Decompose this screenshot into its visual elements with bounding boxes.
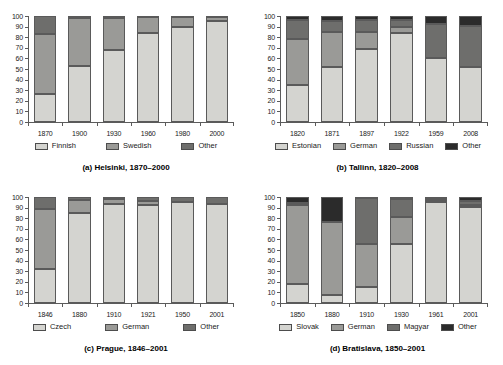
- y-axis-line: [28, 197, 29, 304]
- y-tick-mark: [277, 48, 280, 49]
- x-tick-mark: [131, 123, 132, 126]
- panel-caption: (c) Prague, 1846–2001: [0, 344, 252, 353]
- y-tick-mark: [277, 197, 280, 198]
- panel-caption: (a) Helsinki, 1870–2000: [0, 163, 252, 172]
- legend-item-czech[interactable]: Czech: [33, 323, 71, 331]
- legend-label: German: [348, 323, 375, 331]
- plot-area: 0102030405060708090100182018711897192219…: [280, 16, 488, 122]
- bar-segment-other: [286, 197, 309, 203]
- stacked-bar: [137, 197, 160, 303]
- y-tick-mark: [277, 90, 280, 91]
- stacked-bar: [390, 16, 413, 122]
- legend-item-other[interactable]: Other: [183, 323, 219, 331]
- legend-item-slovak[interactable]: Slovak: [279, 323, 319, 331]
- legend-item-magyar[interactable]: Magyar: [387, 323, 429, 331]
- y-tick-mark: [25, 37, 28, 38]
- y-tick-label: 10: [2, 289, 23, 296]
- stacked-bar: [425, 197, 448, 303]
- y-tick-label: 60: [2, 236, 23, 243]
- bar-segment-estonian: [425, 58, 448, 122]
- y-tick-mark: [277, 27, 280, 28]
- chart-panel-d: 0102030405060708090100185018801910193019…: [252, 183, 503, 365]
- legend-label: Other: [200, 323, 219, 331]
- y-tick-label: 90: [254, 23, 275, 30]
- y-tick-mark: [25, 58, 28, 59]
- bar-segment-swedish: [137, 17, 160, 33]
- legend-item-german[interactable]: German: [105, 323, 149, 331]
- bar-segment-swedish: [34, 34, 57, 94]
- bar-segment-german: [355, 244, 378, 287]
- y-tick-mark: [277, 282, 280, 283]
- bar-segment-swedish: [171, 17, 194, 27]
- stacked-bar: [390, 197, 413, 303]
- y-tick-label: 30: [254, 87, 275, 94]
- y-tick-mark: [25, 239, 28, 240]
- legend-swatch-icon: [275, 143, 288, 150]
- x-tick-label: 1880: [62, 311, 96, 318]
- bar-segment-other: [68, 197, 91, 200]
- stacked-bar: [459, 197, 482, 303]
- y-tick-label: 90: [2, 23, 23, 30]
- bar-segment-other: [355, 197, 378, 199]
- legend-label: Swedish: [123, 142, 151, 150]
- bar-segment-other: [286, 16, 309, 20]
- legend-item-german[interactable]: German: [331, 323, 375, 331]
- y-tick-label: 80: [254, 215, 275, 222]
- legend-item-other[interactable]: Other: [181, 142, 217, 150]
- y-tick-mark: [25, 101, 28, 102]
- y-tick-label: 90: [254, 204, 275, 211]
- bar-segment-other: [425, 16, 448, 24]
- x-tick-label: 2000: [200, 130, 234, 137]
- y-tick-mark: [25, 80, 28, 81]
- legend-label: Finnish: [52, 142, 76, 150]
- stacked-bar: [459, 16, 482, 122]
- y-tick-mark: [277, 271, 280, 272]
- y-tick-label: 10: [254, 108, 275, 115]
- y-tick-mark: [25, 229, 28, 230]
- x-tick-mark: [62, 123, 63, 126]
- y-tick-label: 30: [2, 268, 23, 275]
- y-tick-label: 10: [254, 289, 275, 296]
- y-tick-mark: [277, 37, 280, 38]
- y-tick-mark: [25, 261, 28, 262]
- bar-segment-czech: [137, 205, 160, 303]
- y-tick-label: 50: [2, 247, 23, 254]
- bar-segment-other: [206, 16, 229, 18]
- bar-segment-other: [103, 16, 126, 18]
- legend-item-other[interactable]: Other: [441, 323, 477, 331]
- x-tick-label: 1980: [165, 130, 199, 137]
- bar-segment-czech: [103, 204, 126, 303]
- y-tick-label: 0: [254, 300, 275, 307]
- y-tick-mark: [25, 271, 28, 272]
- legend-item-russian[interactable]: Russian: [389, 142, 433, 150]
- y-tick-mark: [277, 239, 280, 240]
- stacked-bar: [68, 197, 91, 303]
- legend-item-german[interactable]: German: [333, 142, 377, 150]
- x-tick-label: 1850: [280, 311, 315, 318]
- y-tick-label: 0: [2, 300, 23, 307]
- x-tick-mark: [280, 123, 281, 126]
- legend-item-other[interactable]: Other: [445, 142, 481, 150]
- chart-panel-c: 0102030405060708090100184618801910192119…: [0, 183, 252, 365]
- bar-segment-german: [286, 39, 309, 85]
- legend-item-estonian[interactable]: Estonian: [275, 142, 321, 150]
- bar-segment-german: [34, 209, 57, 269]
- legend-item-swedish[interactable]: Swedish: [106, 142, 151, 150]
- bar-segment-other: [321, 197, 344, 222]
- x-tick-label: 1871: [315, 130, 350, 137]
- plot-area: 0102030405060708090100185018801910193019…: [280, 197, 488, 303]
- y-tick-mark: [25, 197, 28, 198]
- x-tick-label: 1900: [62, 130, 96, 137]
- bar-segment-estonian: [321, 67, 344, 122]
- legend: EstonianGermanRussianOther: [258, 142, 498, 150]
- bar-segment-slovak: [425, 202, 448, 303]
- bar-segment-estonian: [390, 33, 413, 122]
- y-axis-line: [280, 16, 281, 123]
- bar-segment-german: [321, 222, 344, 294]
- legend-swatch-icon: [106, 143, 119, 150]
- y-tick-label: 50: [254, 66, 275, 73]
- legend-item-finnish[interactable]: Finnish: [35, 142, 76, 150]
- y-tick-mark: [25, 69, 28, 70]
- bar-segment-russian: [286, 20, 309, 39]
- stacked-bar: [286, 16, 309, 122]
